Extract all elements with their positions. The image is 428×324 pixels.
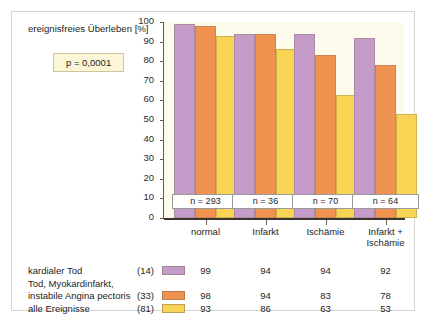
y-axis-tick-label: 0 xyxy=(149,211,154,222)
y-axis-tick-mark xyxy=(160,159,164,160)
legend-value-cell: 98 xyxy=(180,290,232,301)
bar xyxy=(234,34,255,218)
x-axis-line xyxy=(164,218,405,220)
group-count-label: n = 293 xyxy=(172,194,239,209)
y-axis-tick-mark xyxy=(160,198,164,199)
x-axis-tick-mark xyxy=(386,220,387,225)
y-axis-title: ereignisfreies Überleben [%] xyxy=(28,23,149,34)
bar-group: n = 64 xyxy=(354,22,417,218)
x-axis-tick-mark xyxy=(206,220,207,225)
bar xyxy=(195,26,216,218)
x-axis-tick-mark xyxy=(266,220,267,225)
y-axis-tick-mark xyxy=(160,120,164,121)
legend-row: alle Ereignisse(81)93866353 xyxy=(12,303,416,316)
y-axis-tick-mark xyxy=(160,140,164,141)
legend-row: kardialer Tod(14)99949492 xyxy=(12,265,416,278)
x-axis-category-label: Infarkt +Ischämie xyxy=(350,226,422,248)
y-axis-tick-mark xyxy=(160,22,164,23)
y-axis-tick-label: 40 xyxy=(143,133,154,144)
legend-value-cell: 94 xyxy=(240,265,292,276)
y-axis-tick-mark xyxy=(160,179,164,180)
bar-group: n = 36 xyxy=(234,22,297,218)
y-axis-tick-mark xyxy=(160,218,164,219)
y-axis-tick-label: 90 xyxy=(143,35,154,46)
legend-series-label: instabile Angina pectoris xyxy=(28,290,130,301)
legend-value-cell: 93 xyxy=(180,303,232,314)
legend-value-cell: 53 xyxy=(360,303,412,314)
group-count-label: n = 36 xyxy=(232,194,299,209)
legend-data-table: kardialer Tod(14)99949492Tod, Myokardinf… xyxy=(12,255,416,312)
legend-value-cell: 86 xyxy=(240,303,292,314)
y-axis-tick-label: 10 xyxy=(143,191,154,202)
y-axis-tick-mark xyxy=(160,100,164,101)
figure-panel: ereignisfreies Überleben [%] p = 0,0001 … xyxy=(11,11,415,311)
group-count-label: n = 64 xyxy=(352,194,419,209)
y-axis-tick-label: 60 xyxy=(143,93,154,104)
y-axis-tick-mark xyxy=(160,61,164,62)
legend-value-cell: 99 xyxy=(180,265,232,276)
legend-value-cell: 63 xyxy=(300,303,352,314)
legend-series-count: (14) xyxy=(128,265,154,276)
p-value-annotation: p = 0,0001 xyxy=(53,53,124,72)
bar xyxy=(255,34,276,218)
legend-series-label: alle Ereignisse xyxy=(28,303,90,314)
y-axis-tick-label: 20 xyxy=(143,172,154,183)
bar-group: n = 293 xyxy=(174,22,237,218)
bar-group: n = 70 xyxy=(294,22,357,218)
x-axis-tick-mark xyxy=(326,220,327,225)
legend-series-label-continuation: Tod, Myokardinfarkt, xyxy=(28,278,114,289)
x-axis-category-line: Infarkt + xyxy=(350,226,422,237)
y-axis-tick-label: 70 xyxy=(143,74,154,85)
legend-value-cell: 92 xyxy=(360,265,412,276)
group-count-label: n = 70 xyxy=(292,194,359,209)
y-axis-tick-label: 80 xyxy=(143,54,154,65)
y-axis-tick-label: 50 xyxy=(143,113,154,124)
bar xyxy=(354,38,375,218)
y-axis-tick-label: 30 xyxy=(143,152,154,163)
legend-value-cell: 94 xyxy=(240,290,292,301)
y-axis-tick-mark xyxy=(160,42,164,43)
legend-series-count: (81) xyxy=(128,303,154,314)
legend-value-cell: 83 xyxy=(300,290,352,301)
legend-row: instabile Angina pectoris(33)98948378 xyxy=(12,290,416,303)
bar xyxy=(294,34,315,218)
x-axis-category-line: Ischämie xyxy=(350,237,422,248)
legend-value-cell: 78 xyxy=(360,290,412,301)
y-axis-tick-label: 100 xyxy=(138,15,154,26)
bar xyxy=(174,24,195,218)
legend-series-label: kardialer Tod xyxy=(28,265,82,276)
y-axis-tick-mark xyxy=(160,81,164,82)
legend-series-count: (33) xyxy=(128,290,154,301)
legend-value-cell: 94 xyxy=(300,265,352,276)
